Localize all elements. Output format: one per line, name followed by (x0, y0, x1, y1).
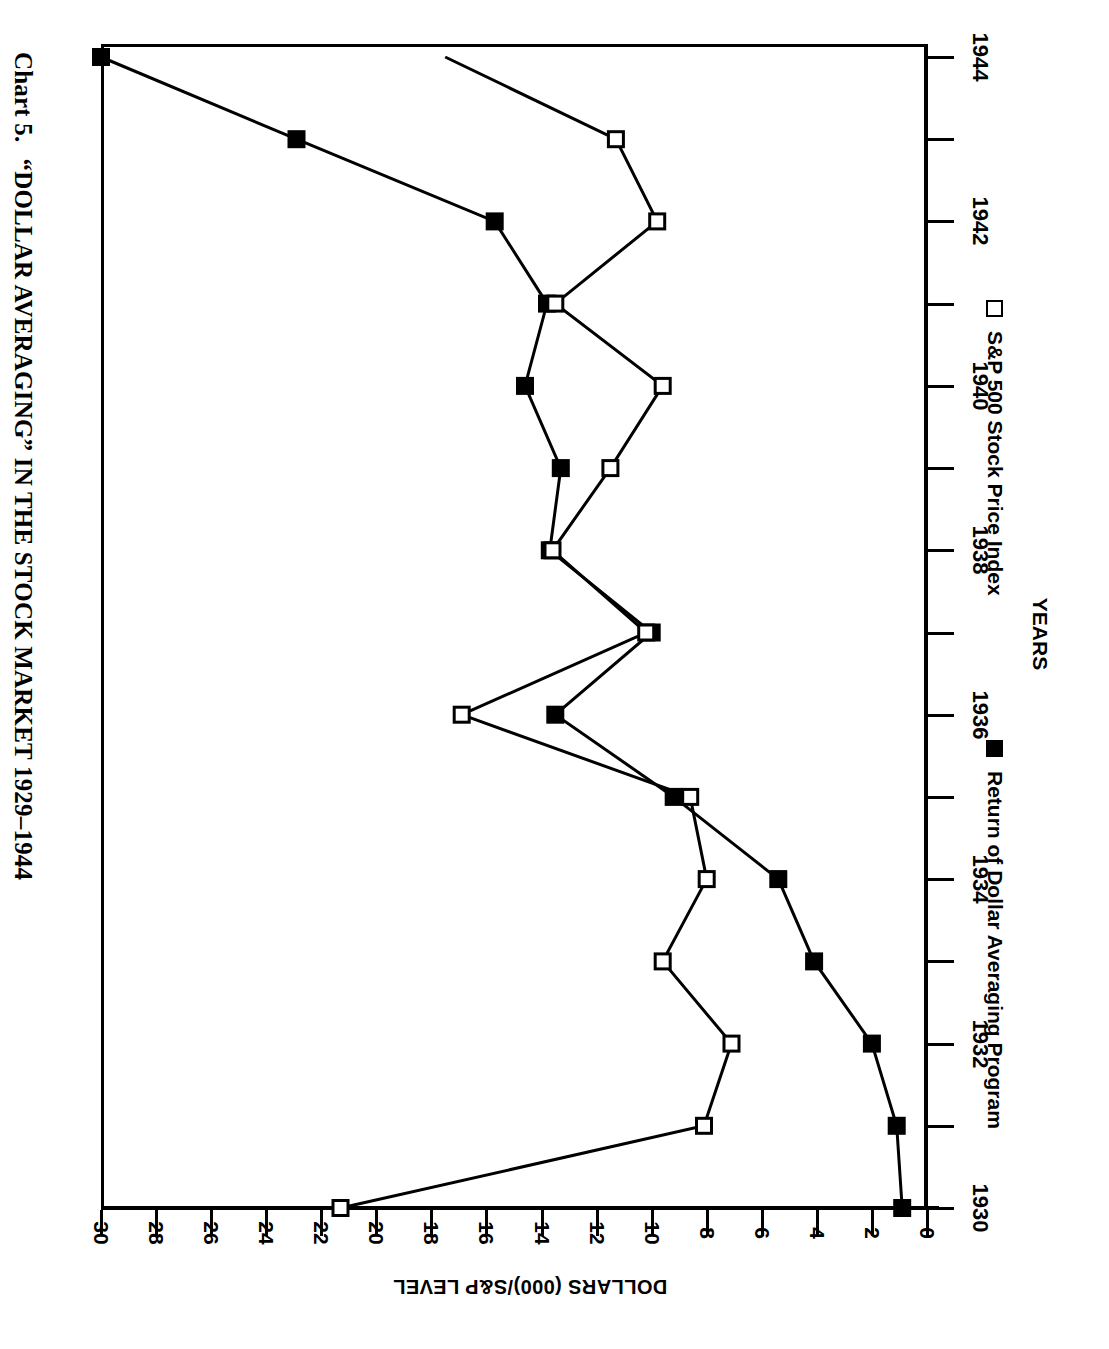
open-square-marker (545, 543, 560, 558)
open-square-marker (639, 625, 654, 640)
open-square-marker (650, 214, 665, 229)
open-square-marker (608, 132, 623, 147)
open-square-marker (697, 1118, 712, 1133)
filled-square-marker (553, 460, 569, 476)
filled-square-marker (517, 378, 533, 394)
open-square-marker (454, 707, 469, 722)
filled-square-marker (93, 49, 109, 65)
chart-page: Chart 5. “DOLLAR AVERAGING” IN THE STOCK… (0, 0, 1109, 1349)
open-square-marker (333, 1201, 348, 1216)
filled-square-marker (806, 953, 822, 969)
filled-square-marker (547, 707, 563, 723)
open-square-marker (724, 1036, 739, 1051)
open-square-marker (683, 789, 698, 804)
filled-square-marker (289, 131, 305, 147)
series-line (341, 57, 732, 1208)
filled-square-marker (770, 871, 786, 887)
open-square-marker (548, 296, 563, 311)
open-square-marker (655, 378, 670, 393)
open-square-marker (655, 954, 670, 969)
open-square-marker (603, 461, 618, 476)
filled-square-marker (864, 1036, 880, 1052)
filled-square-marker (889, 1118, 905, 1134)
open-square-marker (699, 872, 714, 887)
filled-square-marker (487, 213, 503, 229)
filled-square-marker (894, 1200, 910, 1216)
series-layer (0, 0, 1109, 1349)
